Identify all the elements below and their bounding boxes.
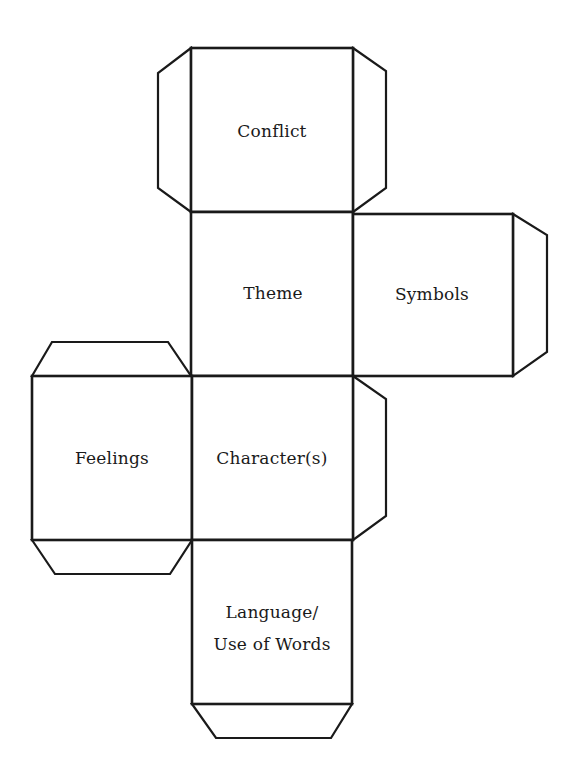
symbols-label: Symbols [395, 284, 469, 304]
character-right-tab [353, 376, 386, 540]
symbols-right-tab [513, 214, 547, 376]
language-face [192, 540, 352, 704]
language-label-line2: Use of Words [213, 634, 330, 654]
feelings-label: Feelings [75, 448, 149, 468]
language-label-line1: Language/ [226, 602, 319, 622]
conflict-left-tab [158, 48, 191, 212]
feelings-bottom-tab [32, 540, 192, 574]
feelings-top-tab [32, 342, 191, 376]
language-bottom-tab [192, 704, 352, 738]
conflict-right-tab [353, 48, 386, 212]
theme-label: Theme [243, 283, 303, 303]
character-label: Character(s) [216, 448, 327, 468]
cube-net-diagram: Conflict Theme Symbols Feelings Characte… [0, 0, 576, 776]
conflict-label: Conflict [237, 121, 306, 141]
